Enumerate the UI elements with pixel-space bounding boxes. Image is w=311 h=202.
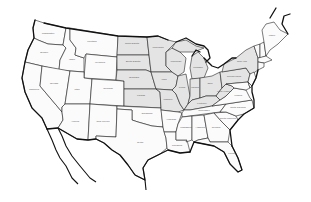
label-ok: Oklahoma — [142, 112, 154, 115]
label-ut: Utah — [74, 88, 80, 91]
state-nd[interactable] — [117, 36, 149, 55]
label-la: Louisiana — [172, 144, 183, 147]
mexico-mainland-outline — [145, 180, 146, 190]
label-mo: Missouri — [164, 98, 173, 101]
label-me: Maine — [269, 34, 276, 37]
label-ia: Iowa — [161, 78, 167, 81]
label-or: Oregon — [40, 51, 49, 54]
label-wi: Wisconsin — [171, 60, 183, 63]
map-canvas: Washington Oregon California Idaho Nevad… — [0, 0, 311, 202]
label-ms: Mississippi — [180, 126, 192, 129]
state-co[interactable] — [90, 79, 124, 106]
label-co: Colorado — [103, 87, 113, 90]
label-in: Indiana — [191, 86, 200, 89]
label-wy: Wyoming — [95, 61, 106, 64]
label-az: Arizona — [71, 120, 80, 123]
label-oh: Ohio — [207, 82, 213, 85]
label-wv: West Virginia — [217, 90, 232, 93]
label-mn: Minnesota — [152, 46, 164, 49]
label-nv: Nevada — [50, 82, 59, 85]
label-ga: Georgia — [212, 126, 221, 129]
label-va: Virginia — [234, 94, 243, 97]
label-sc: South Carolina — [220, 117, 236, 120]
state-sd[interactable] — [117, 55, 151, 72]
state-wy[interactable] — [84, 54, 117, 80]
label-tn: Tennessee — [198, 109, 210, 112]
label-ny: New York — [237, 60, 248, 63]
label-al: Alabama — [195, 126, 205, 129]
label-sd: South Dakota — [126, 60, 141, 63]
label-fl: Florida — [228, 152, 236, 155]
label-tx: Texas — [137, 141, 144, 144]
label-ks: Kansas — [137, 94, 146, 97]
label-nm: New Mexico — [96, 120, 110, 123]
label-id: Idaho — [69, 58, 76, 61]
label-ca: California — [29, 88, 40, 91]
us-outline-map: Washington Oregon California Idaho Nevad… — [0, 0, 311, 202]
label-mt: Montana — [87, 40, 97, 43]
label-ar: Arkansas — [166, 118, 177, 121]
label-mi: Michigan — [193, 66, 203, 69]
state-ks[interactable] — [124, 89, 161, 108]
label-il: Illinois — [179, 86, 186, 89]
label-nc: North Carolina — [230, 106, 246, 109]
state-ct[interactable] — [258, 62, 264, 70]
label-nd: North Dakota — [125, 42, 140, 45]
label-pa: Pennsylvania — [227, 75, 242, 78]
label-ky: Kentucky — [197, 102, 208, 105]
label-ne: Nebraska — [129, 76, 140, 79]
label-wa: Washington — [42, 32, 55, 35]
